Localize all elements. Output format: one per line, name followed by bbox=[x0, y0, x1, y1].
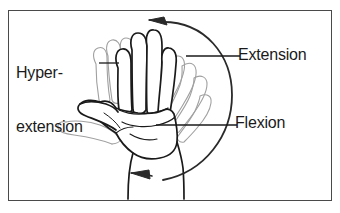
label-hyperextension-line1: Hyper- bbox=[16, 64, 83, 82]
figure-canvas: Hyper- extension Extension Flexion bbox=[0, 0, 340, 213]
hand-outline-solid bbox=[78, 30, 177, 159]
label-hyperextension: Hyper- extension bbox=[16, 28, 83, 172]
arrowhead-bottom-left bbox=[131, 170, 152, 179]
arrowhead-top-left bbox=[149, 17, 167, 25]
label-hyperextension-line2: extension bbox=[16, 118, 83, 136]
label-extension: Extension bbox=[238, 46, 306, 64]
label-flexion: Flexion bbox=[235, 114, 285, 132]
